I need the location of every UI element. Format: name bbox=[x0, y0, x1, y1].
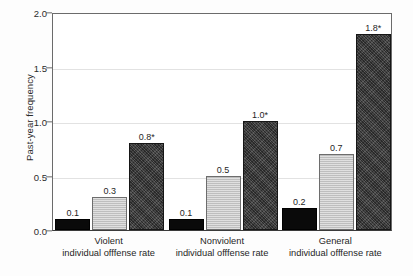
bar-series-1-group-2: 0.1 bbox=[169, 219, 204, 230]
bar-series-3-group-2: 1.0* bbox=[243, 121, 278, 230]
bar-series-2-group-3: 0.7 bbox=[319, 154, 354, 230]
gridline bbox=[53, 123, 391, 124]
bar-value-label: 0.3 bbox=[103, 186, 116, 196]
bar-value-label: 1.8* bbox=[365, 23, 381, 33]
bar-chart-figure: Past-year frequency 0.00.51.01.52.0 0.10… bbox=[0, 0, 413, 276]
bar-value-label: 0.2 bbox=[293, 197, 306, 207]
y-axis-tick-label: 0.5 bbox=[7, 171, 47, 182]
gridline bbox=[53, 69, 391, 70]
y-axis-tick-label: 1.0 bbox=[7, 117, 47, 128]
bar-value-label: 0.1 bbox=[180, 208, 193, 218]
bar-series-1-group-1: 0.1 bbox=[55, 219, 90, 230]
bar-value-label: 0.5 bbox=[217, 165, 230, 175]
bar-series-2-group-1: 0.3 bbox=[92, 197, 127, 230]
bar-series-3-group-1: 0.8* bbox=[129, 143, 164, 230]
bar-series-2-group-2: 0.5 bbox=[206, 176, 241, 231]
x-axis-group-label-line2: individual offfense rate bbox=[260, 248, 410, 260]
x-axis-group-label-3: Generalindividual offfense rate bbox=[260, 236, 410, 259]
bar-series-3-group-3: 1.8* bbox=[356, 34, 391, 230]
bar-value-label: 0.7 bbox=[330, 143, 343, 153]
y-axis-tick-label: 1.5 bbox=[7, 62, 47, 73]
y-axis-tick-label: 2.0 bbox=[7, 8, 47, 19]
bar-series-1-group-3: 0.2 bbox=[282, 208, 317, 230]
bar-value-label: 0.1 bbox=[66, 208, 79, 218]
bar-value-label: 0.8* bbox=[139, 132, 155, 142]
x-axis-group-label-line1: General bbox=[260, 236, 410, 248]
plot-area: 0.10.30.8*0.10.51.0*0.20.71.8* bbox=[52, 13, 392, 231]
y-axis-tick-label: 0.0 bbox=[7, 226, 47, 237]
bar-value-label: 1.0* bbox=[252, 110, 268, 120]
